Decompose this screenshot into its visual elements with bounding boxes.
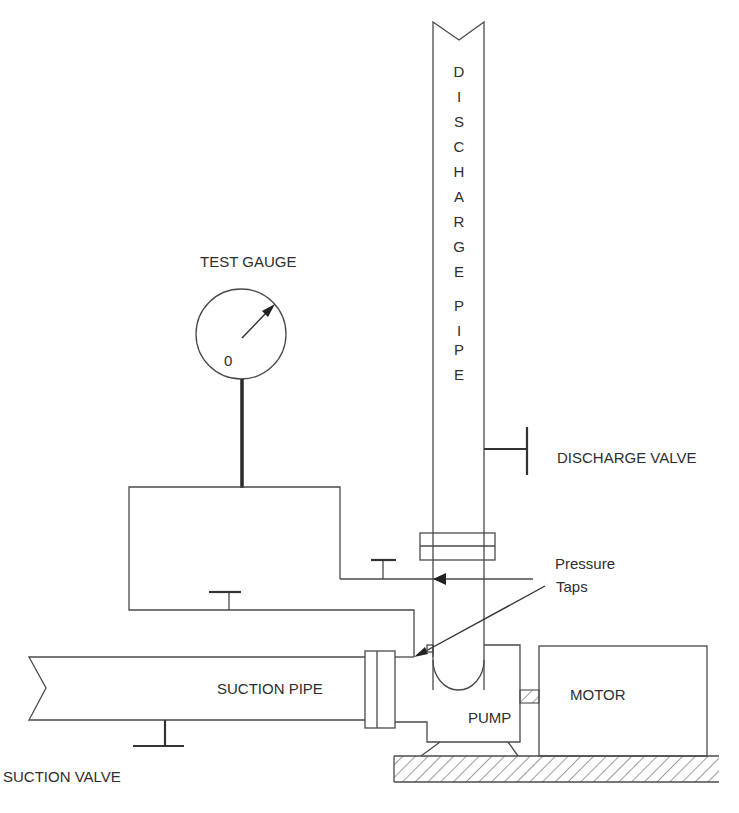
svg-text:E: E <box>454 366 464 383</box>
discharge-valve-icon[interactable] <box>484 427 527 475</box>
coupling <box>520 690 539 703</box>
base-foundation <box>394 756 719 782</box>
lower-tap-valve-icon[interactable] <box>209 592 241 610</box>
upper-tap-arrow-icon <box>433 573 446 585</box>
pump-label: PUMP <box>468 709 511 726</box>
motor-label: MOTOR <box>570 686 626 703</box>
pressure-taps-label-line1: Pressure <box>555 555 615 572</box>
pressure-tubing <box>129 487 533 657</box>
svg-text:E: E <box>454 263 464 280</box>
test-gauge-label: TEST GAUGE <box>200 253 296 270</box>
suction-valve-label: SUCTION VALVE <box>3 768 121 785</box>
lower-tap-arrow-icon <box>414 647 428 657</box>
suction-pipe-label: SUCTION PIPE <box>217 680 323 697</box>
pump <box>395 645 520 756</box>
discharge-pipe-label: D I S C H A R G E P I P E <box>453 63 465 383</box>
svg-text:I: I <box>457 88 461 105</box>
suction-valve-icon[interactable] <box>133 720 184 746</box>
suction-flange <box>365 651 395 728</box>
svg-text:P: P <box>454 297 464 314</box>
svg-text:P: P <box>454 341 464 358</box>
svg-text:R: R <box>454 213 465 230</box>
gauge-zero-label: 0 <box>224 352 232 369</box>
test-gauge-icon <box>196 289 286 379</box>
svg-text:D: D <box>454 63 465 80</box>
upper-tap-valve-icon[interactable] <box>371 560 396 579</box>
svg-text:H: H <box>454 163 465 180</box>
svg-text:G: G <box>453 238 465 255</box>
svg-text:C: C <box>454 138 465 155</box>
pump-test-diagram: D I S C H A R G E P I P E DISCHARGE VALV… <box>0 0 739 813</box>
discharge-valve-label: DISCHARGE VALVE <box>557 449 696 466</box>
pressure-taps-label-line2: Taps <box>556 578 588 595</box>
svg-text:S: S <box>454 113 464 130</box>
svg-text:I: I <box>457 322 461 339</box>
svg-text:A: A <box>454 188 464 205</box>
